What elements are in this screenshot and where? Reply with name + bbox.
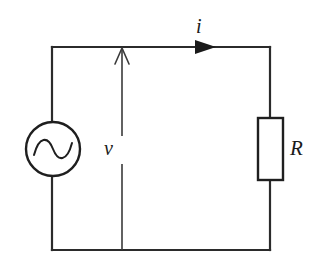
current-label: i [196, 16, 202, 36]
circuit-figure: i v R [0, 0, 320, 276]
voltage-label: v [104, 138, 113, 158]
circuit-schematic [0, 0, 320, 276]
resistor-label: R [290, 138, 303, 159]
current-arrowhead-icon [195, 40, 216, 54]
resistor-box [258, 118, 283, 180]
